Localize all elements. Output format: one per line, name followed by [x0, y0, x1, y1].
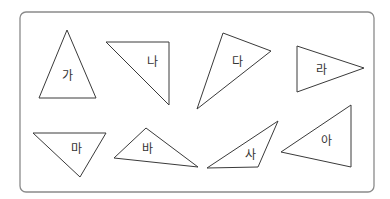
triangle-label: 바	[142, 142, 153, 156]
triangle-label: 가	[62, 69, 73, 83]
triangle-label: 사	[245, 148, 256, 162]
triangle-label: 나	[147, 55, 158, 69]
triangle-label: 다	[232, 55, 243, 69]
triangle-label: 아	[321, 134, 332, 148]
triangle-label: 라	[316, 63, 327, 77]
triangle-label: 마	[71, 142, 82, 156]
triangle-diagram: 가 나 다 라 마 바 사 아	[0, 0, 390, 199]
